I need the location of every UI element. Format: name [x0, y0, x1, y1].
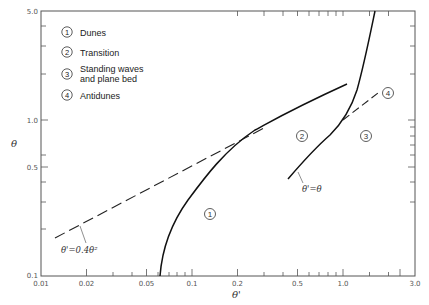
equation-label-2: θ'=θ	[302, 184, 322, 194]
region-marker-4: 4	[383, 88, 394, 99]
x-axis-ticks	[87, 269, 401, 276]
y-axis-title: θ	[11, 138, 17, 149]
legend-label: Dunes	[80, 28, 107, 38]
legend: 1 Dunes 2 Transition 3 Standing waves an…	[62, 27, 144, 101]
x-axis-top-ticks	[238, 11, 389, 16]
y-tick-labels: 0.1 0.5 1.0 5.0	[27, 8, 38, 280]
svg-text:4: 4	[65, 91, 69, 100]
legend-label-line2: and plane bed	[80, 74, 137, 84]
x-tick-labels: 0.01 0.02 0.05 0.1 0.2 0.5 1.0 3.0	[33, 280, 420, 288]
x-tick-label: 0.05	[139, 280, 155, 288]
y-tick-label: 5.0	[27, 8, 38, 16]
leader-line	[80, 226, 86, 243]
legend-label: Standing waves	[80, 64, 144, 74]
region-marker-2: 2	[297, 131, 308, 142]
dashed-line-theta-equal	[343, 93, 378, 120]
x-axis-title: θ'	[232, 289, 241, 300]
y-tick-label: 1.0	[27, 117, 38, 125]
antidunes-boundary-curve	[288, 11, 375, 179]
y-axis-right-ticks	[408, 26, 415, 202]
region-marker-3: 3	[361, 131, 372, 142]
x-tick-label: 0.01	[33, 280, 49, 288]
dashed-line-theta-0.4	[55, 128, 264, 238]
svg-text:4: 4	[386, 89, 391, 98]
svg-text:2: 2	[300, 132, 305, 141]
y-axis-ticks	[41, 26, 48, 229]
legend-item-antidunes: 4 Antidunes	[62, 90, 121, 101]
svg-text:3: 3	[65, 70, 69, 79]
leader-line	[298, 172, 303, 183]
y-tick-label: 0.1	[27, 272, 38, 280]
svg-text:1: 1	[208, 210, 213, 219]
x-tick-label: 3.0	[409, 280, 420, 288]
legend-label: Antidunes	[80, 91, 121, 101]
svg-text:2: 2	[65, 48, 69, 57]
regime-chart: 0.01 0.02 0.05 0.1 0.2 0.5 1.0 3.0 0.1 0…	[0, 0, 429, 305]
x-tick-label: 0.2	[232, 280, 243, 288]
x-tick-label: 0.1	[186, 280, 197, 288]
svg-text:1: 1	[65, 28, 69, 37]
svg-text:3: 3	[364, 132, 369, 141]
legend-item-dunes: 1 Dunes	[62, 27, 107, 38]
y-tick-label: 0.5	[27, 164, 38, 172]
legend-item-transition: 2 Transition	[62, 47, 119, 58]
legend-item-standing-waves: 3 Standing waves and plane bed	[62, 64, 144, 84]
x-tick-label: 0.5	[292, 280, 303, 288]
equation-label-1: θ'=0.4θ²	[61, 245, 98, 255]
x-tick-label: 1.0	[337, 280, 348, 288]
x-tick-label: 0.02	[79, 280, 95, 288]
dunes-boundary-curve	[160, 84, 347, 276]
legend-label: Transition	[80, 48, 119, 58]
region-marker-1: 1	[205, 209, 216, 220]
